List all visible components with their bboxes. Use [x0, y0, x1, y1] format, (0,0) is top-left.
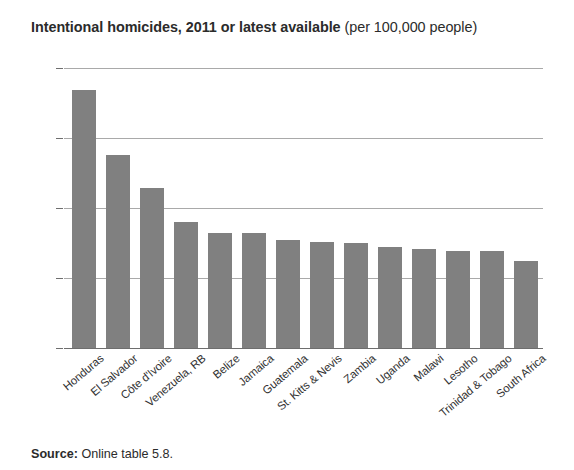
x-axis-category-label: Honduras: [0, 352, 106, 458]
bar: [412, 249, 436, 348]
bar: [140, 188, 164, 348]
axis-baseline: [64, 348, 543, 349]
bar: [72, 90, 96, 348]
bar: [208, 233, 232, 348]
source-label: Source:: [31, 447, 78, 461]
gridline: [64, 208, 543, 209]
y-axis-tick: [56, 278, 63, 279]
source-text: Online table 5.8.: [78, 447, 173, 461]
bar: [276, 240, 300, 348]
chart-title-bold: Intentional homicides, 2011 or latest av…: [31, 19, 341, 35]
bar: [480, 251, 504, 348]
source-note: Source: Online table 5.8.: [31, 447, 173, 461]
chart-title: Intentional homicides, 2011 or latest av…: [31, 19, 571, 35]
bar: [106, 155, 130, 348]
x-axis-labels: HondurasEl SalvadorCôte d'IvoireVenezuel…: [64, 352, 543, 432]
y-axis-tick: [56, 208, 63, 209]
bar: [344, 243, 368, 348]
bar: [174, 222, 198, 348]
bar: [378, 247, 402, 348]
y-axis-tick: [56, 138, 63, 139]
bar: [446, 251, 470, 348]
y-axis-tick: [56, 348, 63, 349]
gridline: [64, 278, 543, 279]
chart-title-regular: (per 100,000 people): [341, 19, 478, 35]
gridline: [64, 68, 543, 69]
bar: [514, 261, 538, 348]
bar: [242, 233, 266, 348]
chart-figure: Intentional homicides, 2011 or latest av…: [0, 0, 574, 470]
bar: [310, 242, 334, 348]
gridline: [64, 138, 543, 139]
y-axis-tick: [56, 68, 63, 69]
plot-area: 0255075100: [64, 68, 543, 348]
